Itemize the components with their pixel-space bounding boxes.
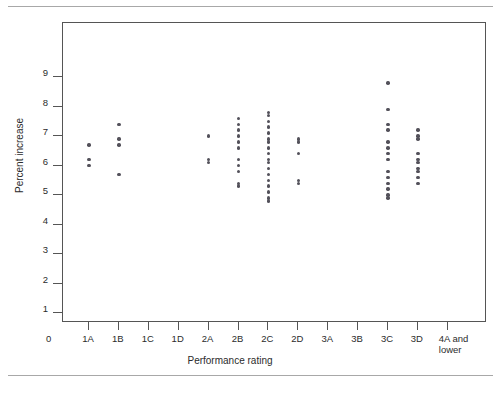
x-axis-title: Performance rating	[0, 355, 460, 366]
data-point	[386, 196, 389, 199]
data-point	[386, 146, 389, 149]
data-point	[237, 146, 240, 149]
y-axis-tick-label: 9	[18, 68, 48, 78]
data-point	[416, 128, 419, 131]
data-point	[237, 128, 240, 131]
data-point	[386, 152, 389, 155]
x-axis-tick-mark	[357, 322, 358, 330]
data-point	[386, 123, 389, 126]
y-axis-tick-mark	[53, 253, 62, 254]
x-axis-tick-mark	[267, 322, 268, 330]
data-point	[117, 173, 120, 176]
plot-area	[62, 22, 486, 322]
y-axis-tick-mark	[53, 312, 62, 313]
data-point	[117, 137, 120, 140]
data-point	[207, 161, 210, 164]
data-point	[267, 152, 270, 155]
bottom-rule	[8, 375, 493, 376]
data-point	[267, 125, 270, 128]
x-axis-tick-mark	[387, 322, 388, 330]
data-point	[386, 128, 389, 131]
data-point	[207, 134, 210, 137]
data-point	[297, 140, 300, 143]
data-point	[237, 164, 240, 167]
x-axis-tick-label: 3D	[395, 333, 439, 344]
data-point	[267, 146, 270, 149]
data-point	[267, 114, 270, 117]
data-point	[117, 143, 120, 146]
data-point	[87, 164, 90, 167]
y-axis: Percent increase 123456789	[0, 0, 62, 345]
x-axis-tick-mark	[327, 322, 328, 330]
data-point	[416, 182, 419, 185]
x-axis-tick-mark	[297, 322, 298, 330]
x-axis-tick-mark	[148, 322, 149, 330]
x-axis-origin-label: 0	[46, 333, 51, 344]
y-axis-tick-label: 2	[18, 275, 48, 285]
y-axis-tick-mark	[53, 106, 62, 107]
data-point	[386, 108, 389, 111]
data-point	[267, 179, 270, 182]
data-point	[297, 152, 300, 155]
data-point	[267, 120, 270, 123]
y-axis-tick-label: 7	[18, 127, 48, 137]
y-axis-tick-mark	[53, 135, 62, 136]
data-point	[87, 143, 90, 146]
data-point	[237, 158, 240, 161]
data-point	[267, 140, 270, 143]
data-point	[386, 81, 389, 84]
y-axis-tick-mark	[53, 194, 62, 195]
data-point	[416, 170, 419, 173]
x-axis-tick-mark	[118, 322, 119, 330]
data-point	[237, 140, 240, 143]
y-axis-tick-label: 8	[18, 98, 48, 108]
x-axis-tick-label: 4A and lower	[439, 333, 485, 355]
x-axis-tick-mark	[208, 322, 209, 330]
data-point	[416, 137, 419, 140]
data-point	[386, 182, 389, 185]
data-point	[117, 123, 120, 126]
x-axis-tick-mark	[88, 322, 89, 330]
data-point	[416, 176, 419, 179]
data-point	[237, 134, 240, 137]
y-axis-tick-mark	[53, 283, 62, 284]
data-point	[87, 158, 90, 161]
data-point	[267, 167, 270, 170]
data-point	[386, 176, 389, 179]
data-point	[237, 117, 240, 120]
data-point	[267, 184, 270, 187]
y-axis-tick-label: 1	[18, 304, 48, 314]
data-point	[416, 152, 419, 155]
y-axis-tick-label: 6	[18, 157, 48, 167]
y-axis-tick-mark	[53, 76, 62, 77]
y-axis-tick-label: 3	[18, 245, 48, 255]
data-point	[237, 170, 240, 173]
data-point	[267, 173, 270, 176]
x-axis-tick-mark	[178, 322, 179, 330]
y-axis-tick-label: 5	[18, 186, 48, 196]
x-axis-tick-mark	[238, 322, 239, 330]
data-point	[237, 123, 240, 126]
data-point	[267, 131, 270, 134]
y-axis-tick-mark	[53, 224, 62, 225]
y-axis-tick-label: 4	[18, 216, 48, 226]
data-point	[267, 199, 270, 202]
data-point	[386, 158, 389, 161]
x-axis-tick-mark	[447, 322, 448, 330]
data-point	[267, 161, 270, 164]
x-axis-tick-mark	[417, 322, 418, 330]
data-point	[386, 140, 389, 143]
y-axis-tick-mark	[53, 165, 62, 166]
top-rule	[8, 6, 493, 7]
data-point	[416, 161, 419, 164]
data-point	[386, 187, 389, 190]
data-point	[297, 182, 300, 185]
data-point	[386, 170, 389, 173]
data-point	[237, 184, 240, 187]
data-point	[267, 190, 270, 193]
